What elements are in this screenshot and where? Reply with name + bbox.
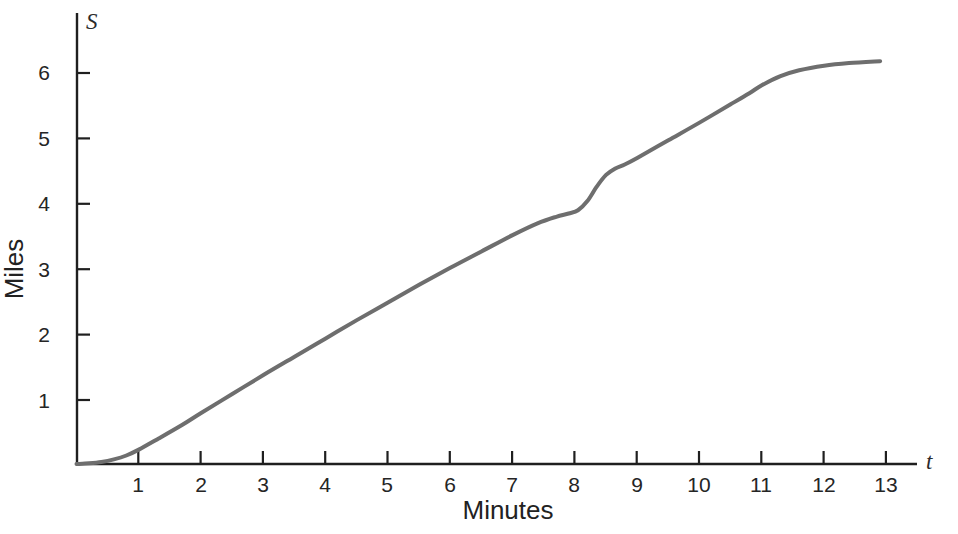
y-axis-ticks (77, 73, 90, 400)
x-tick-label-7: 7 (497, 474, 527, 495)
x-tick-label-11: 11 (743, 474, 779, 495)
x-axis-ticks (138, 451, 886, 464)
x-tick-label-1: 1 (123, 474, 153, 495)
x-tick-label-13: 13 (868, 474, 904, 495)
y-tick-label-1: 1 (22, 390, 50, 411)
x-axis-variable-label: t (926, 450, 932, 473)
y-axis-title: Miles (1, 189, 27, 349)
y-tick-label-6: 6 (22, 62, 50, 83)
data-series-line (77, 61, 881, 464)
chart-figure: 1 2 3 4 5 6 1 2 3 4 5 6 7 8 9 10 11 12 1… (0, 0, 958, 534)
x-tick-label-4: 4 (310, 474, 340, 495)
axis-lines (76, 13, 917, 464)
x-tick-label-2: 2 (186, 474, 216, 495)
x-axis-title: Minutes (358, 497, 658, 523)
x-tick-label-9: 9 (622, 474, 652, 495)
x-tick-label-3: 3 (248, 474, 278, 495)
x-tick-label-6: 6 (435, 474, 465, 495)
y-tick-label-5: 5 (22, 128, 50, 149)
x-tick-label-10: 10 (681, 474, 717, 495)
x-tick-label-12: 12 (806, 474, 842, 495)
plot-canvas (0, 0, 958, 534)
x-tick-label-8: 8 (559, 474, 589, 495)
x-tick-label-5: 5 (372, 474, 402, 495)
y-axis-variable-label: S (86, 10, 98, 33)
